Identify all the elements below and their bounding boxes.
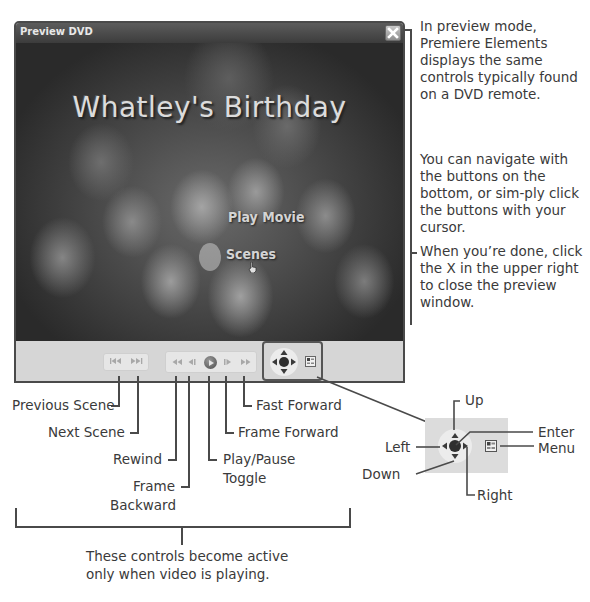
label-frame-backward-2: Backward — [110, 497, 176, 513]
hand-pointer-icon — [248, 262, 257, 273]
video-preview-area: Whatley's Birthday Play Movie Scenes — [16, 43, 403, 341]
frame-backward-icon — [187, 358, 197, 366]
dvd-menu-play-movie[interactable]: Play Movie — [228, 209, 304, 225]
bracket-right — [349, 508, 351, 528]
callout-line — [410, 252, 417, 254]
callout-line — [225, 376, 227, 434]
rewind-icon — [172, 358, 183, 366]
label-down: Down — [362, 466, 400, 482]
callout-line — [181, 486, 190, 488]
callout-line — [208, 459, 217, 461]
rewind-button[interactable] — [172, 358, 183, 369]
previous-scene-icon — [110, 357, 123, 365]
preview-dvd-window: Preview DVD Whatley's Birthday Play Movi… — [14, 21, 405, 383]
callout-line — [168, 459, 177, 461]
close-x-icon — [386, 26, 400, 40]
label-enter: Enter — [538, 424, 574, 440]
note-preview-mode: In preview mode, Premiere Elements displ… — [420, 18, 588, 103]
nav-controls-highlight — [262, 341, 323, 381]
callout-line — [118, 376, 120, 406]
dvd-menu-scenes[interactable]: Scenes — [226, 246, 276, 262]
label-previous-scene: Previous Scene — [12, 397, 115, 413]
note-navigate: You can navigate with the buttons on the… — [420, 151, 588, 236]
fast-forward-button[interactable] — [240, 358, 251, 369]
bracket-note-line-2: only when video is playing. — [86, 566, 270, 582]
bracket-left — [15, 508, 17, 528]
next-scene-icon — [130, 357, 143, 365]
fast-forward-icon — [240, 358, 251, 366]
callout-line — [225, 432, 234, 434]
next-scene-button[interactable] — [130, 357, 143, 368]
label-play-pause-2: Toggle — [223, 470, 266, 486]
frame-forward-icon — [223, 358, 233, 366]
label-up: Up — [465, 392, 483, 408]
callout-line — [137, 376, 139, 433]
previous-scene-button[interactable] — [110, 357, 123, 368]
label-right: Right — [477, 487, 513, 503]
window-title: Preview DVD — [20, 26, 93, 37]
menu-highlight-balloon — [199, 243, 221, 271]
label-play-pause-1: Play/Pause — [223, 451, 295, 467]
label-rewind: Rewind — [113, 451, 162, 467]
callout-line — [208, 376, 210, 461]
label-left: Left — [385, 439, 410, 455]
close-button[interactable] — [385, 25, 401, 41]
callout-line — [175, 376, 177, 460]
title-bar[interactable]: Preview DVD — [16, 23, 403, 43]
callout-line — [243, 405, 252, 407]
scene-button-group — [103, 353, 149, 371]
bracket-note-line-1: These controls become active — [86, 548, 288, 564]
label-menu: Menu — [538, 440, 575, 456]
label-next-scene: Next Scene — [48, 424, 125, 440]
bracket-stem — [181, 526, 183, 545]
frame-forward-button[interactable] — [223, 358, 233, 369]
callout-line — [130, 432, 139, 434]
callout-line — [410, 29, 412, 325]
callout-line — [243, 376, 245, 407]
playback-button-group — [165, 351, 257, 373]
label-frame-forward: Frame Forward — [238, 424, 339, 440]
play-pause-button[interactable] — [204, 356, 217, 369]
dvd-menu-title: Whatley's Birthday — [16, 91, 403, 124]
bracket-bar — [15, 526, 351, 528]
frame-backward-button[interactable] — [187, 358, 197, 369]
note-close: When you’re done, click the X in the upp… — [420, 243, 588, 311]
callout-line — [188, 376, 190, 487]
label-frame-backward-1: Frame — [133, 478, 175, 494]
